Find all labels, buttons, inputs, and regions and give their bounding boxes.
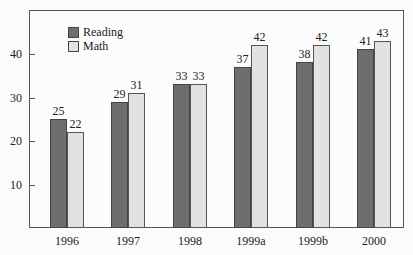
x-tick-label: 1998 (165, 234, 215, 249)
data-label: 43 (371, 26, 395, 41)
bar-math-1999b (313, 45, 330, 228)
x-tick-label: 2000 (349, 234, 399, 249)
y-tick-10 (29, 185, 35, 186)
data-label: 42 (248, 30, 272, 45)
data-label: 33 (187, 69, 211, 84)
legend-label-reading: Reading (83, 25, 123, 40)
bar-reading-1997 (111, 102, 128, 228)
data-label: 22 (64, 117, 88, 132)
bar-math-1998 (190, 84, 207, 228)
legend-swatch-reading (68, 27, 79, 38)
y-tick-20 (29, 141, 35, 142)
y-tick-40 (29, 54, 35, 55)
x-tick-label: 1997 (103, 234, 153, 249)
bar-reading-1996 (50, 119, 67, 228)
bar-reading-1998 (173, 84, 190, 228)
data-label: 31 (125, 78, 149, 93)
y-tick-label: 10 (0, 178, 22, 193)
bar-math-1999a (251, 45, 268, 228)
data-label: 42 (310, 30, 334, 45)
bar-math-1997 (128, 93, 145, 228)
x-tick-label: 1996 (42, 234, 92, 249)
y-tick-label: 20 (0, 134, 22, 149)
bar-chart: 40 30 20 10 Reading Math 252219962931199… (0, 0, 413, 255)
bar-reading-1999a (234, 67, 251, 228)
bar-math-2000 (374, 41, 391, 228)
y-tick-label: 30 (0, 91, 22, 106)
bar-reading-2000 (357, 49, 374, 228)
legend-swatch-math (68, 41, 79, 52)
x-tick-label: 1999b (288, 234, 338, 249)
y-tick-30 (29, 98, 35, 99)
x-tick-label: 1999a (226, 234, 276, 249)
bar-math-1996 (67, 132, 84, 228)
y-tick-label: 40 (0, 47, 22, 62)
bar-reading-1999b (296, 62, 313, 228)
legend-label-math: Math (83, 39, 108, 54)
